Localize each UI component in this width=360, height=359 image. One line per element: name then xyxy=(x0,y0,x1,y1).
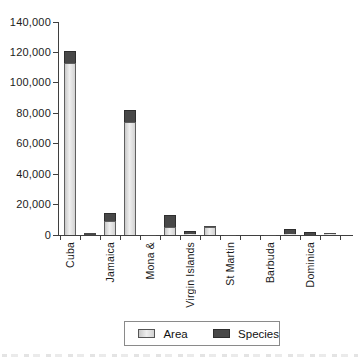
bar-Cuba xyxy=(64,51,76,235)
area-segment xyxy=(204,227,216,235)
x-category-label-wrap: Jamaica xyxy=(102,242,118,283)
bar-Virgin Islands xyxy=(184,231,196,235)
y-tick xyxy=(53,204,58,205)
y-tick-label: 40,000 xyxy=(0,169,51,180)
y-tick xyxy=(53,113,58,114)
x-tick xyxy=(220,236,221,240)
area-legend-label: Area xyxy=(163,328,187,340)
species-legend-label: Species xyxy=(238,328,279,340)
x-tick xyxy=(200,236,201,240)
y-tick-label: 140,000 xyxy=(0,17,51,28)
y-tick-label: 0 xyxy=(0,230,51,241)
x-category-label-wrap: Barbuda xyxy=(262,242,278,283)
y-tick xyxy=(53,174,58,175)
y-tick-label: 60,000 xyxy=(0,138,51,149)
x-category-label-wrap: St Martin xyxy=(222,242,238,286)
bar-unlabeled-4 xyxy=(124,110,136,235)
cropped-caption-text-remnant xyxy=(2,354,358,357)
x-category-label-wrap: Dominica xyxy=(302,242,318,287)
x-category-label: Barbuda xyxy=(264,242,276,283)
species-segment xyxy=(104,213,116,220)
species-legend-swatch xyxy=(213,329,230,338)
bar-unlabeled-8 xyxy=(204,226,216,235)
x-tick xyxy=(120,236,121,240)
area-segment xyxy=(124,122,136,235)
y-tick-label: 100,000 xyxy=(0,77,51,88)
x-tick xyxy=(60,236,61,240)
species-segment xyxy=(64,51,76,63)
x-tick xyxy=(260,236,261,240)
area-segment xyxy=(104,221,116,235)
x-category-label: Virgin Islands xyxy=(184,242,196,308)
x-tick xyxy=(280,236,281,240)
species-segment xyxy=(164,215,176,227)
x-tick xyxy=(240,236,241,240)
area-legend-swatch xyxy=(138,329,155,338)
bar-unlabeled-14 xyxy=(324,233,336,235)
x-tick xyxy=(80,236,81,240)
x-tick xyxy=(300,236,301,240)
legend: Area Species xyxy=(124,321,280,346)
y-tick-label: 80,000 xyxy=(0,108,51,119)
bar-Jamaica xyxy=(104,213,116,235)
x-category-label-wrap: Mona & xyxy=(142,242,158,279)
area-segment xyxy=(184,234,196,235)
x-tick xyxy=(180,236,181,240)
bar-unlabeled-6 xyxy=(164,215,176,235)
x-category-label-wrap: Virgin Islands xyxy=(182,242,198,308)
y-tick xyxy=(53,82,58,83)
x-axis-line xyxy=(58,235,353,236)
y-tick xyxy=(53,52,58,53)
y-axis-line xyxy=(58,22,59,235)
x-tick xyxy=(320,236,321,240)
y-tick xyxy=(53,22,58,23)
bar-unlabeled-12 xyxy=(284,229,296,235)
x-category-label: Cuba xyxy=(64,242,76,268)
bar-unlabeled-2 xyxy=(84,233,96,235)
y-tick xyxy=(53,235,58,236)
x-tick xyxy=(160,236,161,240)
x-category-label: Dominica xyxy=(304,242,316,287)
y-tick-label: 20,000 xyxy=(0,199,51,210)
x-category-label-wrap: Cuba xyxy=(62,242,78,268)
species-area-bar-chart: 020,00040,00060,00080,000100,000120,0001… xyxy=(0,0,360,359)
x-category-label: Mona & xyxy=(144,242,156,279)
x-category-label: Jamaica xyxy=(104,242,116,283)
y-tick xyxy=(53,143,58,144)
area-segment xyxy=(284,234,296,235)
species-segment xyxy=(124,110,136,122)
x-tick xyxy=(140,236,141,240)
y-tick-label: 120,000 xyxy=(0,47,51,58)
x-tick xyxy=(340,236,341,240)
x-category-label: St Martin xyxy=(224,242,236,286)
area-segment xyxy=(64,63,76,235)
bar-Dominica xyxy=(304,232,316,235)
x-tick xyxy=(100,236,101,240)
area-segment xyxy=(164,227,176,235)
area-segment xyxy=(324,234,336,235)
